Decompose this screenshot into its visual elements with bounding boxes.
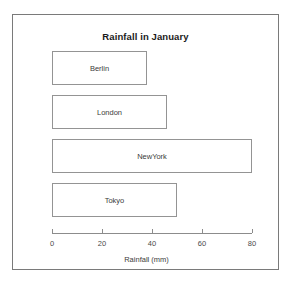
bar-label-london: London	[53, 108, 166, 117]
bar-newyork: NewYork	[52, 139, 252, 173]
x-tick-20	[102, 229, 103, 233]
bar-label-berlin: Berlin	[53, 64, 146, 73]
x-axis-title: Rainfall (mm)	[13, 255, 279, 264]
chart-figure: Rainfall in January Berlin London NewYor…	[12, 14, 279, 270]
x-tick-60	[202, 229, 203, 233]
x-tick-label-60: 60	[198, 239, 206, 248]
x-tick-0	[52, 229, 53, 233]
x-tick-80	[252, 229, 253, 233]
x-tick-label-80: 80	[248, 239, 256, 248]
x-tick-40	[152, 229, 153, 233]
x-tick-label-20: 20	[98, 239, 106, 248]
plot-area: Berlin London NewYork Tokyo 020406080 Ra…	[13, 15, 279, 270]
bar-tokyo: Tokyo	[52, 183, 177, 217]
x-axis-line	[52, 233, 252, 234]
bar-label-tokyo: Tokyo	[53, 196, 176, 205]
bar-berlin: Berlin	[52, 51, 147, 85]
x-tick-label-0: 0	[50, 239, 54, 248]
x-tick-label-40: 40	[148, 239, 156, 248]
bar-london: London	[52, 95, 167, 129]
bar-label-newyork: NewYork	[53, 152, 251, 161]
